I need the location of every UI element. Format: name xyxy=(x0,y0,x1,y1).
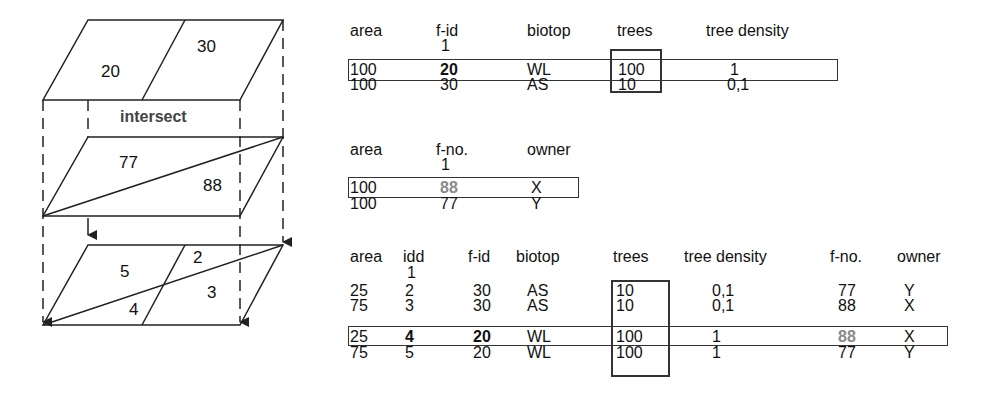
cell-area: 100 xyxy=(350,196,377,212)
cell-biotop: WL xyxy=(527,329,551,345)
key-marker: 1 xyxy=(441,157,450,173)
cell-area: 75 xyxy=(350,298,368,314)
cell-f-id: 30 xyxy=(473,298,491,314)
cell-f-no: 77 xyxy=(440,196,458,212)
cell-area: 75 xyxy=(350,345,368,361)
header-owner: owner xyxy=(897,249,941,265)
cell-trees: 100 xyxy=(616,329,643,345)
cell-owner: Y xyxy=(531,196,542,212)
cell-idd: 3 xyxy=(405,298,414,314)
cell-tree-density: 0,1 xyxy=(727,77,749,93)
header-biotop: biotop xyxy=(516,249,560,265)
polygon-label-5: 5 xyxy=(120,264,129,280)
polygon-label-77: 77 xyxy=(119,155,138,171)
polygon-label-88: 88 xyxy=(203,178,222,194)
cell-f-no: 77 xyxy=(838,345,856,361)
polygon-label-3: 3 xyxy=(207,285,216,301)
header-idd: idd xyxy=(403,249,424,265)
cell-tree-density: 0,1 xyxy=(712,298,734,314)
cell-trees: 100 xyxy=(616,345,643,361)
header-owner: owner xyxy=(527,142,571,158)
cell-owner: Y xyxy=(904,345,915,361)
operation-label: intersect xyxy=(120,109,187,125)
header-tree-density: tree density xyxy=(684,249,767,265)
cell-area: 25 xyxy=(350,329,368,345)
cell-biotop: AS xyxy=(527,77,548,93)
cell-owner: X xyxy=(904,298,915,314)
header-trees: trees xyxy=(613,249,649,265)
header-f-id: f-id xyxy=(468,249,490,265)
cell-f-id: 20 xyxy=(473,329,491,345)
cell-f-no: 88 xyxy=(440,180,458,196)
key-marker: 1 xyxy=(441,38,450,54)
header-area: area xyxy=(350,23,382,39)
diagram-labels: 20 30 intersect 77 88 5 2 4 3 xyxy=(0,0,320,396)
cell-area: 100 xyxy=(350,77,377,93)
cell-f-id: 20 xyxy=(473,345,491,361)
cell-biotop: AS xyxy=(527,298,548,314)
cell-tree-density: 1 xyxy=(712,345,721,361)
header-tree-density: tree density xyxy=(706,23,789,39)
cell-trees: 10 xyxy=(616,298,634,314)
cell-owner: X xyxy=(531,180,542,196)
cell-tree-density: 1 xyxy=(712,329,721,345)
header-trees: trees xyxy=(617,23,653,39)
key-marker: 1 xyxy=(407,265,416,281)
header-biotop: biotop xyxy=(527,23,571,39)
cell-biotop: WL xyxy=(527,345,551,361)
cell-area: 100 xyxy=(350,180,377,196)
cell-f-id: 30 xyxy=(440,77,458,93)
polygon-label-20: 20 xyxy=(101,64,120,80)
polygon-label-4: 4 xyxy=(129,302,138,318)
header-f-no: f-no. xyxy=(830,249,862,265)
cell-idd: 5 xyxy=(405,345,414,361)
cell-trees: 10 xyxy=(618,77,636,93)
header-area: area xyxy=(350,142,382,158)
header-area: area xyxy=(350,249,382,265)
polygon-label-2: 2 xyxy=(193,250,202,266)
highlighted-row xyxy=(348,59,838,81)
cell-idd: 4 xyxy=(405,329,414,345)
polygon-label-30: 30 xyxy=(197,39,216,55)
highlighted-row xyxy=(348,177,579,198)
cell-f-no: 88 xyxy=(838,298,856,314)
cell-f-no: 88 xyxy=(838,329,856,345)
cell-owner: X xyxy=(904,329,915,345)
